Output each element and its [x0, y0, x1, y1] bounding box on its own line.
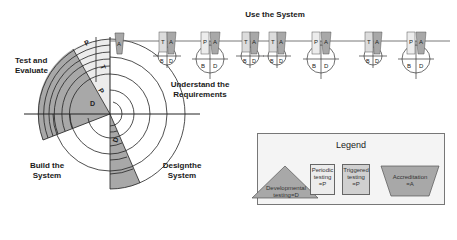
- svg-text:P: P: [314, 39, 318, 45]
- milestone-5: P A B D: [303, 32, 339, 79]
- svg-text:D: D: [324, 63, 329, 69]
- svg-text:T: T: [161, 39, 165, 45]
- svg-text:A: A: [252, 39, 256, 45]
- legend: Legend Developmental testing=D Periodic …: [257, 133, 445, 205]
- milestone-6: T A B D: [359, 32, 387, 68]
- svg-text:D: D: [252, 58, 256, 64]
- legend-triggered-box: Triggered testing =P: [342, 164, 370, 195]
- svg-text:D: D: [213, 63, 218, 69]
- svg-text:A: A: [324, 39, 328, 45]
- legend-accreditation-label: Accreditation =A: [382, 174, 438, 188]
- milestone-1: T A B D: [153, 32, 181, 68]
- svg-text:B: B: [312, 63, 316, 69]
- legend-title: Legend: [258, 140, 444, 150]
- svg-text:B: B: [243, 58, 247, 64]
- svg-text:B: B: [366, 58, 370, 64]
- legend-developmental-label: Developmental testing=D: [256, 185, 316, 199]
- svg-text:T: T: [244, 39, 248, 45]
- svg-text:A: A: [279, 39, 283, 45]
- svg-text:D: D: [419, 63, 424, 69]
- svg-text:T: T: [271, 39, 275, 45]
- svg-text:P: P: [409, 39, 413, 45]
- milestone-4: T A B D: [263, 32, 291, 68]
- svg-text:P: P: [203, 39, 207, 45]
- svg-text:D: D: [375, 58, 379, 64]
- svg-text:A: A: [419, 39, 423, 45]
- svg-text:A: A: [213, 39, 217, 45]
- milestone-2: P A B D: [192, 32, 228, 79]
- milestone-7: P A B D: [398, 32, 434, 79]
- svg-text:B: B: [407, 63, 411, 69]
- legend-periodic-box: Periodic testing =P: [310, 164, 335, 195]
- svg-text:D: D: [169, 58, 173, 64]
- svg-text:B: B: [160, 58, 164, 64]
- milestone-3: T A B D: [236, 32, 264, 68]
- svg-text:T: T: [367, 39, 371, 45]
- svg-text:A: A: [169, 39, 173, 45]
- svg-text:B: B: [201, 63, 205, 69]
- svg-text:D: D: [279, 58, 283, 64]
- svg-text:B: B: [270, 58, 274, 64]
- svg-text:A: A: [375, 39, 379, 45]
